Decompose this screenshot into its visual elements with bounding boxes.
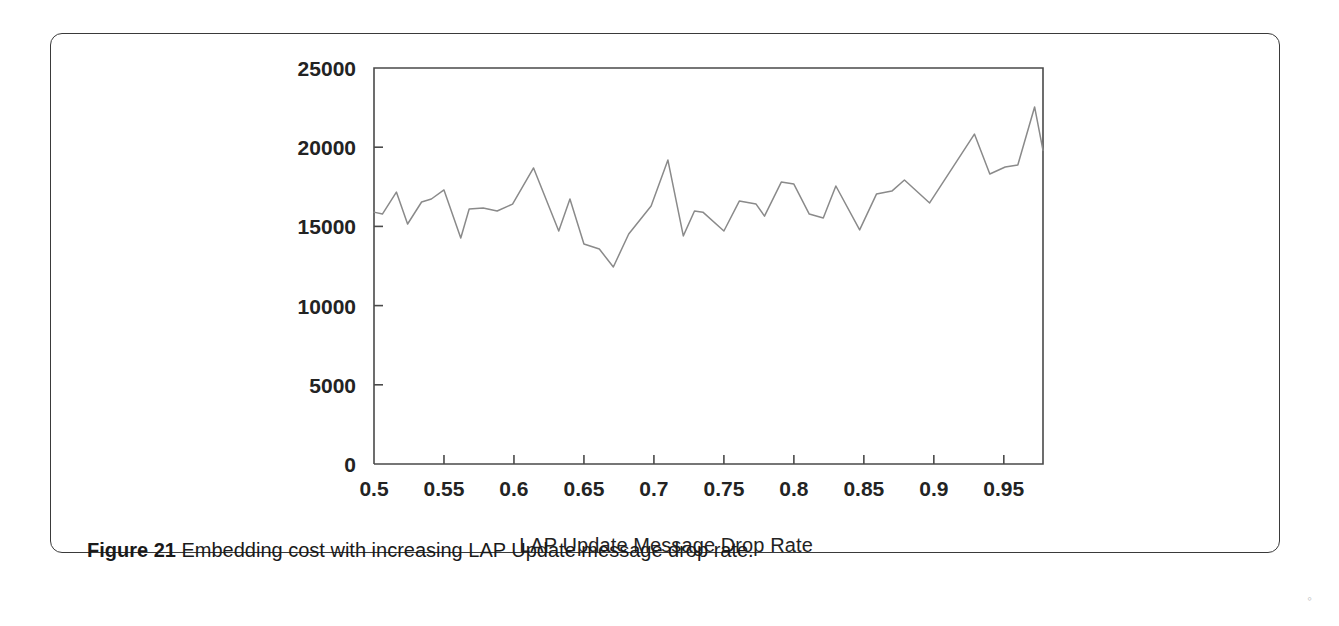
x-axis-tick-label: 0.55 — [424, 477, 465, 500]
figure-caption: Figure 21 Embedding cost with increasing… — [87, 539, 1247, 562]
x-axis-tick-label: 0.5 — [359, 477, 389, 500]
x-axis-tick-labels: 0.50.550.60.650.70.750.80.850.90.95 — [359, 477, 1024, 500]
figure-caption-text: Embedding cost with increasing LAP Updat… — [181, 539, 753, 561]
x-axis-ticks — [444, 455, 1004, 464]
x-axis-tick-label: 0.8 — [779, 477, 809, 500]
x-axis-tick-label: 0.9 — [919, 477, 948, 500]
y-axis-tick-label: 10000 — [298, 295, 356, 318]
y-axis-tick-label: 20000 — [298, 136, 356, 159]
y-axis-tick-label: 15000 — [298, 215, 356, 238]
figure-card: 0500010000150002000025000 0.50.550.60.65… — [50, 33, 1280, 553]
x-axis-tick-label: 0.75 — [703, 477, 744, 500]
embedding-cost-line-chart: 0500010000150002000025000 0.50.550.60.65… — [51, 34, 1281, 514]
plot-frame — [374, 68, 1043, 464]
chart-region: 0500010000150002000025000 0.50.550.60.65… — [51, 34, 1281, 514]
y-axis-ticks — [374, 147, 383, 385]
page-speck-mark: ⸰ — [1307, 596, 1314, 602]
x-axis-tick-label: 0.85 — [843, 477, 884, 500]
y-axis-tick-label: 0 — [344, 453, 356, 476]
y-axis-tick-label: 5000 — [309, 374, 356, 397]
figure-caption-label: Figure 21 — [87, 539, 176, 561]
x-axis-tick-label: 0.7 — [639, 477, 668, 500]
x-axis-tick-label: 0.65 — [563, 477, 604, 500]
x-axis-tick-label: 0.6 — [499, 477, 528, 500]
x-axis-tick-label: 0.95 — [983, 477, 1024, 500]
y-axis-tick-labels: 0500010000150002000025000 — [298, 57, 356, 476]
y-axis-tick-label: 25000 — [298, 57, 356, 80]
embedding-cost-series — [374, 107, 1043, 267]
